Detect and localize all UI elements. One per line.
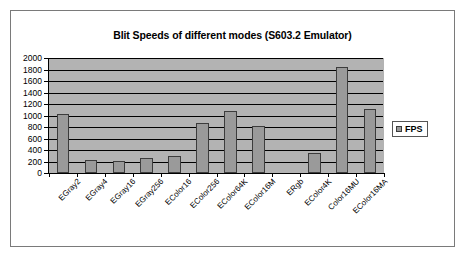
bar-slot: [77, 58, 105, 173]
y-axis-tick-mark: [44, 58, 48, 59]
bar-slot: [217, 58, 245, 173]
bar-series-fps: [49, 58, 384, 173]
y-axis-tick-mark: [44, 70, 48, 71]
y-axis-tick-label: 1800: [2, 65, 42, 75]
y-axis-tick-label: 1000: [2, 111, 42, 121]
y-axis-tick-label: 200: [2, 157, 42, 167]
x-axis-label-ergb: ERgb: [285, 177, 306, 198]
y-axis-tick-mark: [44, 104, 48, 105]
bar-slot: [328, 58, 356, 173]
y-axis-tick-mark: [44, 127, 48, 128]
y-axis-tick-mark: [44, 150, 48, 151]
bar-slot: [244, 58, 272, 173]
chart-title: Blit Speeds of different modes (S603.2 E…: [11, 29, 454, 41]
y-axis-tick-label: 400: [2, 145, 42, 155]
y-axis-tick-mark: [44, 81, 48, 82]
legend-label-fps: FPS: [405, 124, 423, 134]
bar-ecolor4k[interactable]: [308, 153, 321, 173]
bar-egray4[interactable]: [85, 160, 98, 173]
bar-slot: [356, 58, 384, 173]
bar-egray2[interactable]: [57, 114, 70, 173]
bar-slot: [189, 58, 217, 173]
x-axis-label-egray2: EGray2: [56, 177, 82, 203]
y-axis-tick-mark: [44, 162, 48, 163]
x-axis-label-egray256: EGray256: [134, 177, 166, 209]
x-axis-label-egray4: EGray4: [84, 177, 110, 203]
bar-slot: [161, 58, 189, 173]
x-axis-tick-mark: [384, 173, 385, 177]
y-axis-tick-mark: [44, 93, 48, 94]
bar-slot: [133, 58, 161, 173]
bar-egray16[interactable]: [113, 161, 126, 173]
y-axis-tick-label: 2000: [2, 53, 42, 63]
y-axis-tick-label: 1600: [2, 76, 42, 86]
bar-slot: [49, 58, 77, 173]
y-axis-tick-label: 0: [2, 168, 42, 178]
bar-slot: [300, 58, 328, 173]
bar-ecolor16[interactable]: [168, 156, 181, 173]
y-axis-tick-label: 1400: [2, 88, 42, 98]
y-axis-tick-label: 1200: [2, 99, 42, 109]
legend-swatch-icon: [396, 126, 402, 132]
bar-ecolor16m[interactable]: [252, 126, 265, 173]
bar-color16mu[interactable]: [336, 67, 349, 173]
bar-ecolor256[interactable]: [196, 123, 209, 173]
y-axis-tick-mark: [44, 139, 48, 140]
x-axis-labels: EGray2EGray4EGray16EGray256EColor16EColo…: [49, 177, 384, 239]
bar-ecolor64k[interactable]: [224, 111, 237, 173]
chart-frame: Blit Speeds of different modes (S603.2 E…: [10, 10, 455, 247]
bar-ecolor16ma[interactable]: [364, 109, 377, 173]
legend: FPS: [392, 121, 428, 137]
plot-wrapper: 0200400600800100012001400160018002000: [48, 58, 383, 173]
y-axis-tick-mark: [44, 116, 48, 117]
bar-egray256[interactable]: [140, 158, 153, 173]
bar-slot: [272, 58, 300, 173]
y-axis-tick-label: 800: [2, 122, 42, 132]
bar-slot: [105, 58, 133, 173]
y-axis-tick-mark: [44, 173, 48, 174]
y-axis-tick-label: 600: [2, 134, 42, 144]
